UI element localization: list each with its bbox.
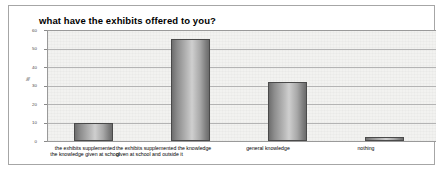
plot-inner: [48, 30, 436, 141]
chart-screenshot: what have the exhibits offered to you? %…: [0, 0, 448, 173]
bar-the-exhibits-supplemented-the-knowledge-given-at-school-and-outside-it[interactable]: [171, 39, 210, 141]
y-tick-label-30: 30: [23, 83, 37, 88]
bar-the-exhibits-supplemented-the-knowledge-given-at-school[interactable]: [74, 123, 113, 142]
plot-area: [47, 30, 436, 142]
y-tick-label-0: 0: [23, 139, 37, 144]
gridline-50: [48, 49, 436, 50]
chart-title: what have the exhibits offered to you?: [39, 15, 216, 26]
category-label-3-line-1: general knowledge: [216, 145, 320, 151]
gridline-30: [48, 86, 436, 87]
category-label-2-line-2: given at school and outside it: [116, 151, 244, 157]
gridline-40: [48, 67, 436, 68]
gridline-20: [48, 104, 436, 105]
category-label-4: nothing: [314, 145, 418, 151]
gridline-60: [48, 30, 436, 31]
y-tick-label-40: 40: [23, 65, 37, 70]
category-label-4-line-1: nothing: [314, 145, 418, 151]
y-tick-label-20: 20: [23, 102, 37, 107]
y-axis-title: %: [25, 77, 31, 81]
bar-general-knowledge[interactable]: [268, 82, 307, 141]
category-label-3: general knowledge: [216, 145, 320, 151]
y-tick-label-60: 60: [23, 28, 37, 33]
chart-frame: what have the exhibits offered to you? %…: [8, 5, 435, 165]
y-tick-label-10: 10: [23, 120, 37, 125]
bar-nothing[interactable]: [365, 137, 404, 142]
y-tick-label-50: 50: [23, 46, 37, 51]
